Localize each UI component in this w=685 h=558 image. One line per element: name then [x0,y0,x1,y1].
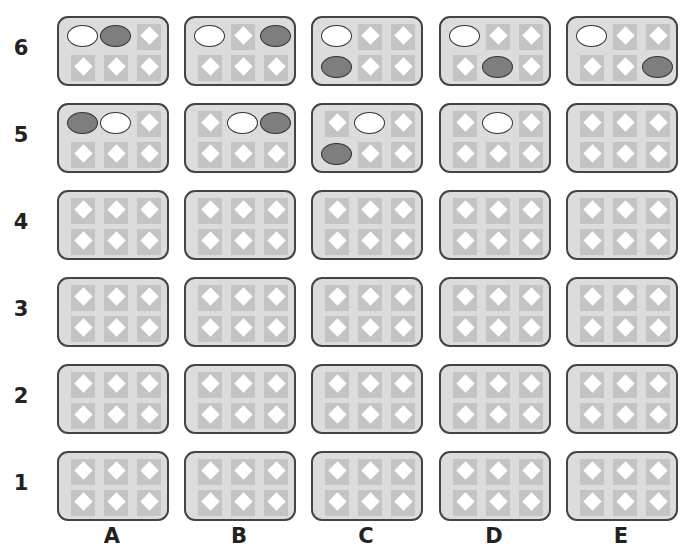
row-label-6: 6 [10,36,32,60]
card-C3 [311,277,423,347]
diamond-icon [107,492,125,510]
square-icon [453,459,477,485]
diamond-icon [489,405,507,423]
cell [227,315,259,343]
diamond-icon [361,492,379,510]
square-icon [137,229,161,255]
diamond-icon [140,26,158,44]
diamond-icon [140,200,158,218]
diamond-icon [328,231,346,249]
cell [321,228,353,256]
cell [354,489,386,517]
white-counter-icon [321,25,352,47]
cell [482,197,514,225]
column-label-C: C [311,524,421,548]
square-icon [453,403,477,429]
square-icon [358,459,382,485]
square-icon [325,111,349,137]
diamond-icon [616,26,634,44]
diamond-icon [616,405,634,423]
diamond-icon [456,231,474,249]
cell [67,489,99,517]
diamond-icon [234,287,252,305]
card-B6 [184,16,296,86]
cell [133,228,165,256]
square-icon [264,372,288,398]
square-icon [391,24,415,50]
diamond-icon [140,318,158,336]
square-icon [264,198,288,224]
diamond-icon [140,287,158,305]
diamond-icon [328,287,346,305]
square-icon [580,316,604,342]
cell [515,284,547,312]
cell [482,489,514,517]
row-label-4: 4 [10,210,32,234]
square-icon [453,229,477,255]
cell [227,110,259,138]
diamond-icon [107,287,125,305]
diamond-icon [616,200,634,218]
cell [194,315,226,343]
square-icon [231,403,255,429]
diamond-icon [489,318,507,336]
square-icon [646,24,670,50]
cell [482,54,514,82]
cell [515,110,547,138]
diamond-icon [74,374,92,392]
row-label-5: 5 [10,123,32,147]
gray-counter-icon [260,25,291,47]
square-icon [71,316,95,342]
cell [576,284,608,312]
diamond-icon [201,461,219,479]
cell [354,54,386,82]
diamond-icon [107,374,125,392]
white-counter-icon [100,112,131,134]
cell [576,141,608,169]
cell [133,489,165,517]
square-icon [231,24,255,50]
square-icon [358,316,382,342]
cell [260,54,292,82]
diamond-icon [489,26,507,44]
square-icon [486,459,510,485]
diamond-icon [74,144,92,162]
diamond-icon [394,492,412,510]
square-icon [264,490,288,516]
diamond-icon [107,144,125,162]
square-icon [137,142,161,168]
cell [515,489,547,517]
square-icon [453,316,477,342]
cell [609,489,641,517]
diamond-icon [328,113,346,131]
square-icon [391,142,415,168]
card-E4 [566,190,678,260]
diamond-icon [361,200,379,218]
diamond-icon [328,318,346,336]
diamond-icon [522,287,540,305]
square-icon [264,403,288,429]
square-icon [519,403,543,429]
diamond-icon [522,26,540,44]
gray-counter-icon [100,25,131,47]
square-icon [519,111,543,137]
square-icon [580,459,604,485]
diamond-icon [74,318,92,336]
square-icon [646,111,670,137]
cell [576,402,608,430]
square-icon [391,316,415,342]
diamond-icon [234,405,252,423]
card-E6 [566,16,678,86]
diamond-icon [361,374,379,392]
square-icon [646,372,670,398]
diamond-icon [234,318,252,336]
square-icon [358,285,382,311]
cell [260,458,292,486]
cell [449,402,481,430]
diamond-icon [361,405,379,423]
cell [67,110,99,138]
diamond-icon [201,57,219,75]
card-E2 [566,364,678,434]
card-A1 [57,451,169,521]
diamond-icon [522,57,540,75]
